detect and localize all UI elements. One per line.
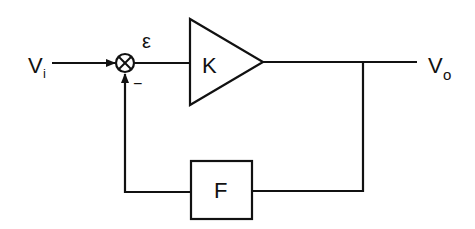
input-label: V i [28,53,46,81]
feedback-block: F [191,161,252,219]
svg-text:V: V [28,53,43,78]
svg-text:K: K [202,53,217,78]
minus-sign: − [133,75,142,92]
svg-text:F: F [214,178,227,203]
svg-text:o: o [443,66,451,83]
svg-text:i: i [43,66,46,81]
feedback-block-diagram: V i − ε K V o F [0,0,475,229]
forward-gain-block: K [190,19,263,105]
error-label: ε [142,30,151,52]
svg-text:V: V [428,53,443,78]
output-label: V o [428,53,451,83]
summing-junction [116,54,134,72]
feedback-path-right [252,62,363,191]
